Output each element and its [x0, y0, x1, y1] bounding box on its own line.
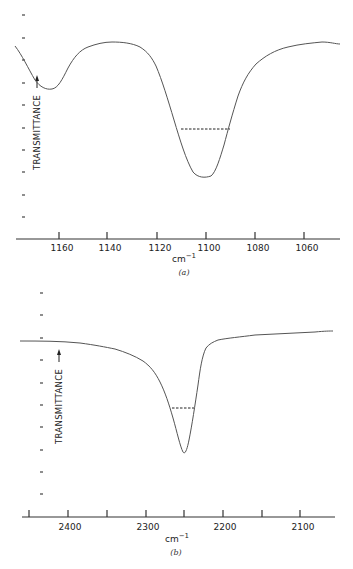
- tick-label: 2400: [59, 522, 82, 532]
- tick-label: 1140: [99, 243, 122, 253]
- spectra-figure: TRANSMITTANCE 1160 1140 1120 1100 1080 1…: [0, 0, 353, 569]
- panel-a-caption: (a): [178, 268, 189, 277]
- panel-b-spectrum-curve: [20, 331, 333, 453]
- panel-a-y-label: TRANSMITTANCE: [32, 75, 42, 171]
- arrow-head-icon: [57, 349, 61, 355]
- tick-label: 2300: [137, 522, 160, 532]
- tick-label: 1100: [198, 243, 221, 253]
- panel-a-spectrum-curve: [15, 42, 340, 177]
- panel-b-x-ticks: [29, 510, 300, 517]
- tick-label: 1080: [247, 243, 270, 253]
- panel-a-x-ticks: [59, 232, 304, 239]
- panel-b-y-label: TRANSMITTANCE: [54, 349, 64, 445]
- panel-a-x-unit: cm−1: [172, 252, 196, 264]
- panel-b-transmittance-label: TRANSMITTANCE: [54, 369, 64, 445]
- tick-label: 1160: [51, 243, 74, 253]
- panel-b-x-unit: cm−1: [165, 532, 189, 544]
- tick-label: 1120: [149, 243, 172, 253]
- panel-b-y-ticks: [40, 293, 43, 494]
- tick-label: 2100: [292, 522, 315, 532]
- panel-a-transmittance-label: TRANSMITTANCE: [32, 95, 42, 171]
- panel-b-caption: (b): [170, 548, 181, 557]
- tick-label: 1060: [296, 243, 319, 253]
- panel-b: TRANSMITTANCE 2400 2300 2200 2100 cm−1 (…: [20, 293, 335, 557]
- panel-a-y-ticks: [22, 15, 25, 217]
- panel-a: TRANSMITTANCE 1160 1140 1120 1100 1080 1…: [15, 15, 340, 277]
- panel-a-x-tick-labels: 1160 1140 1120 1100 1080 1060: [51, 243, 319, 253]
- tick-label: 2200: [214, 522, 237, 532]
- panel-b-x-tick-labels: 2400 2300 2200 2100: [59, 522, 315, 532]
